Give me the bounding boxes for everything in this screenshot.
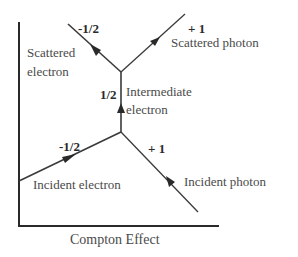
intermediate-electron-arrow-icon xyxy=(117,103,125,113)
incident-electron-arrow-icon xyxy=(62,154,76,163)
scattered-electron-arrow-icon xyxy=(90,44,101,56)
incident-photon-arrow-icon xyxy=(166,176,175,187)
scattered-electron-label-line1: Scattered xyxy=(27,45,75,60)
intermediate-electron-label-line2: electron xyxy=(126,102,168,117)
intermediate-electron-spin: 1/2 xyxy=(100,87,117,102)
scattered-electron-spin: -1/2 xyxy=(78,21,99,36)
incident-electron-label: Incident electron xyxy=(33,177,121,192)
intermediate-electron-label-line1: Intermediate xyxy=(126,84,192,99)
diagram-caption: Compton Effect xyxy=(70,232,160,248)
incident-photon-spin: + 1 xyxy=(148,141,165,156)
scattered-electron-label-line2: electron xyxy=(27,64,69,79)
incident-electron-spin: -1/2 xyxy=(59,139,80,154)
scattered-photon-label: Scattered photon xyxy=(171,35,259,50)
scattered-photon-spin: + 1 xyxy=(188,21,205,36)
incident-photon-label: Incident photon xyxy=(184,174,266,189)
